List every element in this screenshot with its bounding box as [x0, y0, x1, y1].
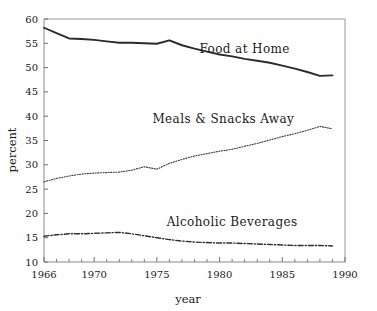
series-label-2: Alcoholic Beverages	[166, 215, 298, 229]
data-series-group	[44, 28, 332, 246]
series-line-1	[44, 126, 332, 181]
y-tick-label: 35	[25, 135, 38, 146]
x-axis-tick-labels: 196619701975198019851990	[31, 269, 357, 280]
x-axis-title: year	[174, 292, 201, 306]
x-tick-label: 1980	[207, 269, 232, 280]
x-tick-label: 1970	[81, 269, 106, 280]
x-tick-label: 1966	[31, 269, 56, 280]
y-tick-label: 30	[25, 159, 38, 170]
series-label-1: Meals & Snacks Away	[152, 112, 294, 126]
y-tick-label: 45	[25, 86, 38, 97]
y-tick-label: 55	[25, 38, 38, 49]
y-tick-label: 50	[25, 62, 38, 73]
y-axis-title: percent	[5, 127, 19, 172]
y-tick-label: 60	[25, 14, 38, 25]
x-tick-label: 1985	[270, 269, 295, 280]
y-tick-label: 15	[25, 232, 38, 243]
x-tick-label: 1990	[332, 269, 357, 280]
series-line-2	[44, 232, 332, 246]
line-chart: 1015202530354045505560 19661970197519801…	[0, 0, 377, 311]
y-tick-label: 25	[25, 184, 38, 195]
y-axis-tick-labels: 1015202530354045505560	[25, 14, 38, 268]
y-tick-label: 10	[25, 257, 38, 268]
y-tick-label: 40	[25, 111, 38, 122]
y-tick-label: 20	[25, 208, 38, 219]
chart-figure: 1015202530354045505560 19661970197519801…	[0, 0, 377, 311]
series-label-0: Food at Home	[199, 42, 289, 56]
x-tick-label: 1975	[144, 269, 169, 280]
series-inline-labels: Food at HomeMeals & Snacks AwayAlcoholic…	[152, 42, 297, 229]
